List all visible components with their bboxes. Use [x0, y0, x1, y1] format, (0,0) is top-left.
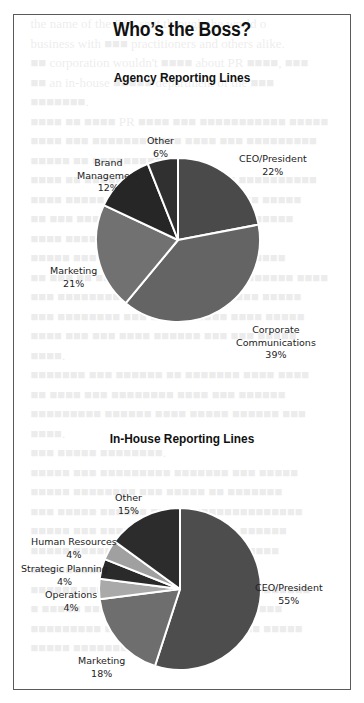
agency-label-other: Other 6% [147, 135, 174, 160]
agency-label-marketing: Marketing 21% [50, 265, 97, 290]
inhouse-label-marketing: Marketing 18% [78, 655, 125, 680]
agency-label-corporate-communications: Corporate Communications 39% [236, 324, 316, 362]
inhouse-label-operations: Operations 4% [45, 589, 97, 614]
agency-label-brand-management: Brand Management 12% [77, 157, 140, 195]
inhouse-pie [99, 508, 261, 670]
agency-label-ceo: CEO/President 22% [239, 153, 307, 178]
inhouse-label-human-resources: Human Resources 4% [31, 536, 117, 561]
inhouse-chart-title: In-House Reporting Lines [22, 431, 342, 446]
inhouse-label-strategic-planning: Strategic Planning 4% [21, 563, 108, 588]
inhouse-label-other: Other 15% [115, 492, 142, 517]
inhouse-label-ceo: CEO/President 55% [255, 582, 323, 607]
